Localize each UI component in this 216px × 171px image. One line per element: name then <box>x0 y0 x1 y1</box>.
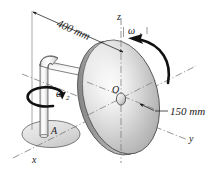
omega1-subscript: 1 <box>139 31 143 39</box>
point-label-O: O <box>112 84 119 95</box>
point-label-A: A <box>50 125 58 136</box>
omega1-label: ω <box>128 25 135 36</box>
omega2-subscript: 2 <box>66 94 70 102</box>
axis-label-z: z <box>116 11 121 22</box>
axis-label-y: y <box>188 133 194 144</box>
shaft-base-cap <box>40 134 48 137</box>
axis-label-x: x <box>31 154 37 165</box>
figure-container: 400 mm 150 mm ω 1 ω 2 <box>0 0 216 171</box>
vertical-shaft-body <box>40 64 48 136</box>
mechanics-diagram: 400 mm 150 mm ω 1 ω 2 <box>0 0 216 171</box>
omega2-label: ω <box>56 88 63 99</box>
dimension-label-150mm: 150 mm <box>170 105 205 117</box>
